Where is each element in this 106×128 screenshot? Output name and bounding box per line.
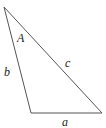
side-b-label: b: [4, 65, 10, 79]
side-c-label: c: [65, 56, 71, 70]
angle-a-label: A: [16, 31, 25, 45]
side-a-label: a: [62, 115, 68, 128]
triangle-shape: [4, 7, 102, 113]
triangle-diagram: A b c a: [0, 0, 106, 128]
